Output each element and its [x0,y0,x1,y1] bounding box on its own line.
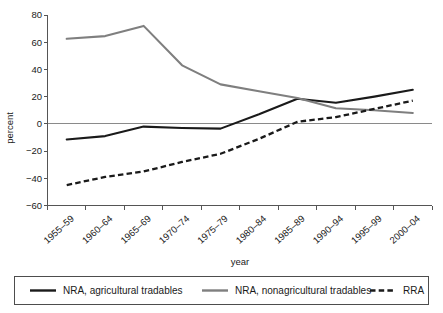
y-tick-label: 0 [37,118,42,129]
y-tick-label: −40 [26,173,42,184]
y-axis-title: percent [4,112,15,144]
x-tick-label: 1960–64 [80,213,115,246]
x-tick-label: 1955–59 [41,213,76,246]
x-tick-label: 1970–74 [157,213,192,246]
x-tick-label: 1980–84 [233,213,268,246]
x-tick-label: 1985–89 [272,213,307,246]
y-tick-label: 80 [31,9,42,20]
line-chart: 806040200−20−40−60 1955–591960–641965–69… [0,0,443,313]
chart-figure: 806040200−20−40−60 1955–591960–641965–69… [0,0,443,313]
data-series-group [67,26,413,185]
y-tick-label: −20 [26,145,42,156]
legend-label-1: NRA, agricultural tradables [63,285,183,296]
series-line-1 [67,90,413,140]
x-tick-label: 1975–79 [195,213,230,246]
y-axis-tick-labels: 806040200−20−40−60 [26,9,42,211]
series-line-3 [67,101,413,185]
y-tick-label: 60 [31,37,42,48]
y-axis-tick-marks [44,15,48,206]
x-tick-label: 1995–99 [349,213,384,246]
legend-label-2: NRA, nonagricultural tradables [235,285,371,296]
x-axis-tick-labels: 1955–591960–641965–691970–741975–791980–… [41,213,422,246]
x-axis-title: year [231,256,249,267]
series-line-2 [67,26,413,113]
y-tick-label: 20 [31,91,42,102]
x-tick-label: 1965–69 [118,213,153,246]
y-tick-label: −60 [26,200,42,211]
legend-label-3: RRA [403,285,424,296]
y-tick-label: 40 [31,64,42,75]
x-tick-label: 1990–94 [310,213,345,246]
x-axis-tick-marks [48,206,433,210]
x-tick-label: 2000–04 [387,213,422,246]
